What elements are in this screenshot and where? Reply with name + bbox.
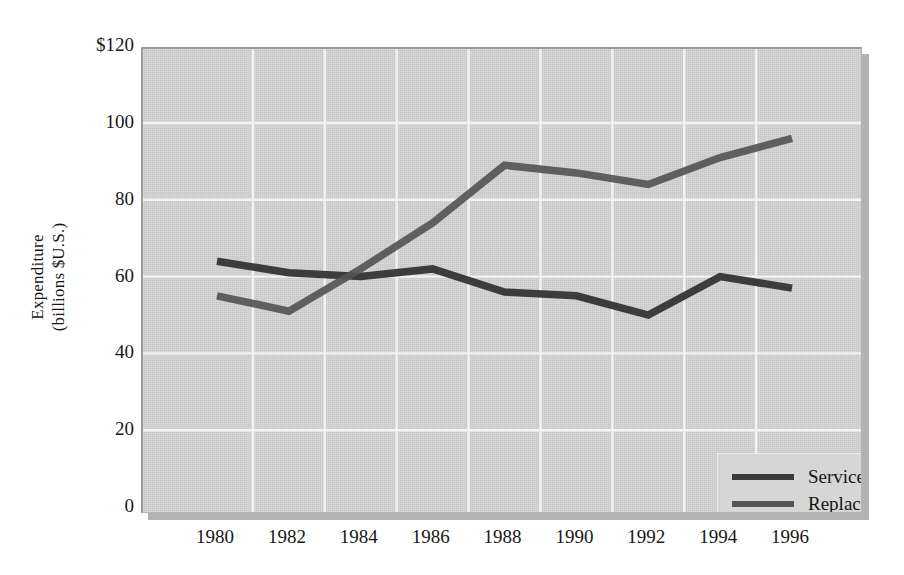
y-axis-tick-label: 100 xyxy=(64,112,134,131)
legend-item-label: Service/repair xyxy=(808,467,862,486)
x-axis-tick-label: 1980 xyxy=(196,527,234,546)
x-axis-tick-label: 1982 xyxy=(268,527,306,546)
legend-item-label: Replacement parts xyxy=(808,494,862,513)
legend-swatch-icon xyxy=(732,474,794,480)
legend-item: Service/repair xyxy=(732,463,862,490)
line-chart-figure: Expenditure (billions $U.S.) $1201008060… xyxy=(0,0,904,575)
plot-svg xyxy=(143,49,862,513)
y-axis-tick-labels: $120100806040200 xyxy=(58,0,134,575)
plot-area: Service/repairReplacement parts xyxy=(141,47,862,513)
y-axis-tick-label: $120 xyxy=(64,35,134,54)
legend-swatch-icon xyxy=(732,501,794,507)
x-axis-tick-label: 1984 xyxy=(340,527,378,546)
plot-surface xyxy=(143,49,861,512)
y-axis-tick-label: 0 xyxy=(64,496,134,515)
x-axis-tick-label: 1994 xyxy=(699,527,737,546)
x-axis-tick-labels: 198019821984198619881990199219941996 xyxy=(0,527,904,557)
y-axis-tick-label: 40 xyxy=(64,342,134,361)
y-axis-tick-label: 20 xyxy=(64,419,134,438)
x-axis-tick-label: 1992 xyxy=(627,527,665,546)
x-axis-tick-label: 1988 xyxy=(484,527,522,546)
y-axis-tick-label: 80 xyxy=(64,189,134,208)
legend-item: Replacement parts xyxy=(732,490,862,513)
chart-legend: Service/repairReplacement parts xyxy=(717,453,862,513)
x-axis-tick-label: 1990 xyxy=(555,527,593,546)
x-axis-tick-label: 1986 xyxy=(412,527,450,546)
y-axis-tick-label: 60 xyxy=(64,266,134,285)
x-axis-tick-label: 1996 xyxy=(771,527,809,546)
